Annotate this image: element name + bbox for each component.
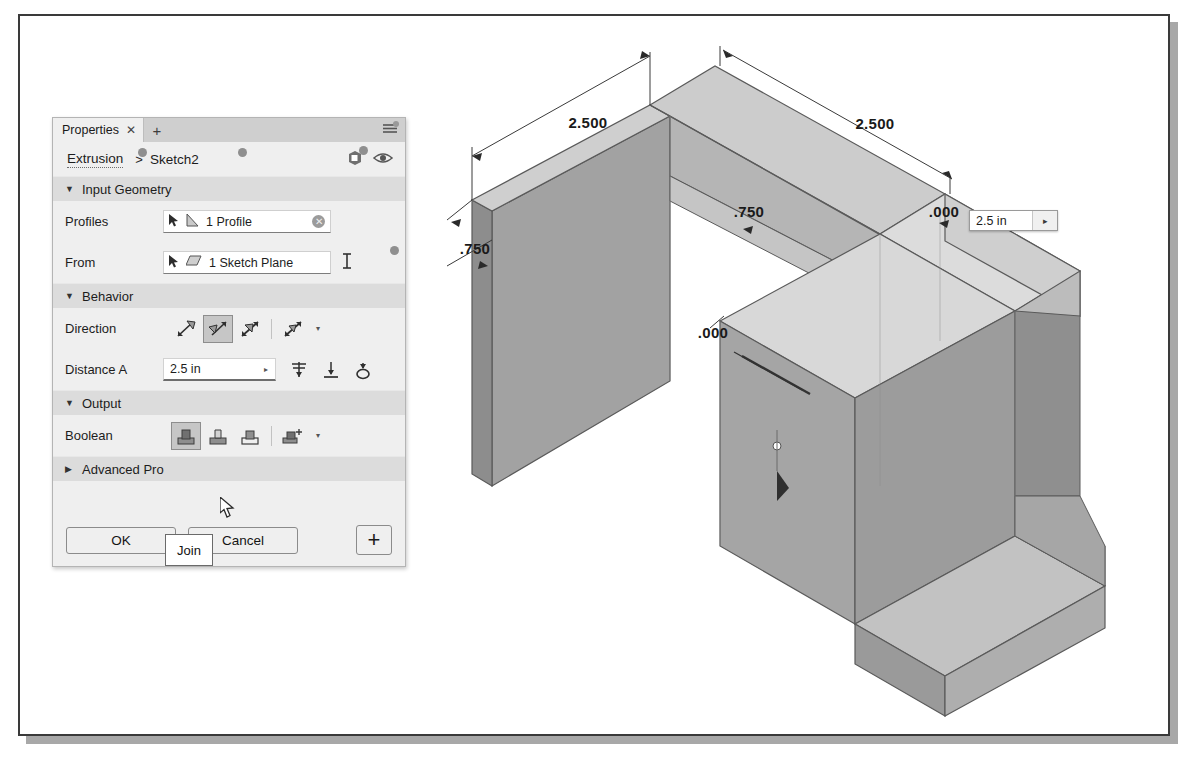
tab-properties[interactable]: Properties ✕	[53, 118, 144, 142]
cancel-button-label: Cancel	[222, 533, 264, 548]
section-header-behavior[interactable]: ▼ Behavior	[53, 283, 405, 308]
chevron-down-icon[interactable]: ▾	[310, 324, 326, 333]
clear-selection-icon[interactable]: ✕	[312, 215, 325, 228]
divider	[271, 426, 272, 446]
section-title: Advanced Pro	[82, 462, 164, 477]
tooltip-join: Join	[165, 534, 213, 566]
arrow-cursor-icon	[220, 497, 235, 518]
boolean-cut-icon[interactable]	[203, 422, 233, 450]
dialog-footer: OK Cancel +	[53, 514, 405, 566]
ok-button-label: OK	[111, 533, 131, 548]
profiles-selection-field[interactable]: 1 Profile ✕	[163, 210, 331, 233]
flip-start-icon[interactable]	[340, 251, 354, 274]
dimension-label: 2.500	[855, 115, 894, 132]
divider	[271, 319, 272, 339]
breadcrumb-parent[interactable]: Extrusion	[67, 151, 123, 168]
plus-icon[interactable]: +	[144, 118, 170, 142]
section-header-advanced-properties[interactable]: ▶ Advanced Pro	[53, 456, 405, 481]
chevron-down-icon[interactable]: ▼	[65, 184, 74, 194]
boolean-intersect-icon[interactable]	[235, 422, 265, 450]
tooltip-label: Join	[177, 543, 201, 558]
chevron-down-icon[interactable]: ▼	[65, 398, 74, 408]
panel-tab-strip: Properties ✕ +	[53, 118, 405, 142]
dimension-label: 2.500	[568, 114, 607, 131]
row-boolean: Boolean	[53, 415, 405, 456]
from-value: 1 Sketch Plane	[209, 256, 325, 270]
direction-asymmetric-icon[interactable]	[278, 315, 308, 343]
profiles-value: 1 Profile	[206, 215, 305, 229]
boolean-option-group: ▾	[171, 422, 326, 450]
boolean-join-icon[interactable]	[171, 422, 201, 450]
breadcrumb: Extrusion > Sketch2	[53, 142, 405, 176]
boolean-label: Boolean	[65, 428, 163, 443]
ok-button[interactable]: OK	[66, 527, 176, 554]
distance-options-group	[284, 356, 378, 384]
cursor-arrow-icon	[169, 255, 179, 271]
distance-a-label: Distance A	[65, 362, 163, 377]
section-title: Behavior	[82, 289, 133, 304]
profile-shape-icon	[186, 213, 199, 230]
eye-visibility-icon[interactable]	[373, 151, 393, 168]
inline-distance-value[interactable]: 2.5 in	[970, 211, 1033, 230]
expand-arrow-icon[interactable]: ▸	[1033, 211, 1057, 230]
direction-label: Direction	[65, 321, 163, 336]
row-from: From 1 Sketch Plane	[53, 242, 405, 283]
status-dot	[390, 246, 399, 255]
from-selection-field[interactable]: 1 Sketch Plane	[163, 251, 331, 274]
section-header-output[interactable]: ▼ Output	[53, 390, 405, 415]
status-dot	[359, 146, 368, 155]
breadcrumb-current[interactable]: Sketch2	[150, 152, 199, 167]
taper-angle-icon[interactable]	[284, 356, 314, 384]
hamburger-menu-icon[interactable]	[381, 121, 399, 137]
add-feature-button[interactable]: +	[356, 525, 392, 555]
section-title: Output	[82, 396, 121, 411]
application-window: 2.500 2.500 .750 .750 .000 .000 2.5 in ▸…	[18, 14, 1170, 736]
direction-default-icon[interactable]	[171, 315, 201, 343]
dimension-label: .750	[460, 240, 490, 257]
plus-icon: +	[368, 529, 381, 551]
chevron-right-icon[interactable]: ▸	[257, 365, 275, 374]
status-dot	[138, 148, 147, 157]
dimension-label: .000	[929, 203, 959, 220]
direction-symmetric-icon[interactable]	[235, 315, 265, 343]
close-icon[interactable]: ✕	[126, 123, 136, 137]
boolean-new-solid-icon[interactable]	[278, 422, 308, 450]
dimension-label: .750	[734, 203, 764, 220]
tab-properties-label: Properties	[62, 123, 119, 137]
distance-a-value[interactable]: 2.5 in	[170, 362, 257, 376]
measure-icon[interactable]	[348, 356, 378, 384]
status-dot	[238, 148, 247, 157]
direction-option-group: ▾	[171, 315, 326, 343]
from-label: From	[65, 255, 163, 270]
section-title: Input Geometry	[82, 182, 172, 197]
dimension-label: .000	[698, 324, 728, 341]
inline-distance-input[interactable]: 2.5 in ▸	[969, 210, 1058, 231]
row-profiles: Profiles 1 Profile ✕	[53, 201, 405, 242]
cursor-arrow-icon	[169, 214, 179, 230]
row-distance-a: Distance A 2.5 in ▸	[53, 349, 405, 390]
to-next-icon[interactable]	[316, 356, 346, 384]
chevron-down-icon[interactable]: ▾	[310, 431, 326, 440]
chevron-down-icon[interactable]: ▼	[65, 291, 74, 301]
section-header-input-geometry[interactable]: ▼ Input Geometry	[53, 176, 405, 201]
direction-flipped-icon[interactable]	[203, 315, 233, 343]
sketch-plane-icon	[186, 255, 202, 270]
row-direction: Direction	[53, 308, 405, 349]
profiles-label: Profiles	[65, 214, 163, 229]
distance-a-input[interactable]: 2.5 in ▸	[163, 358, 276, 381]
chevron-right-icon[interactable]: ▶	[65, 464, 74, 474]
